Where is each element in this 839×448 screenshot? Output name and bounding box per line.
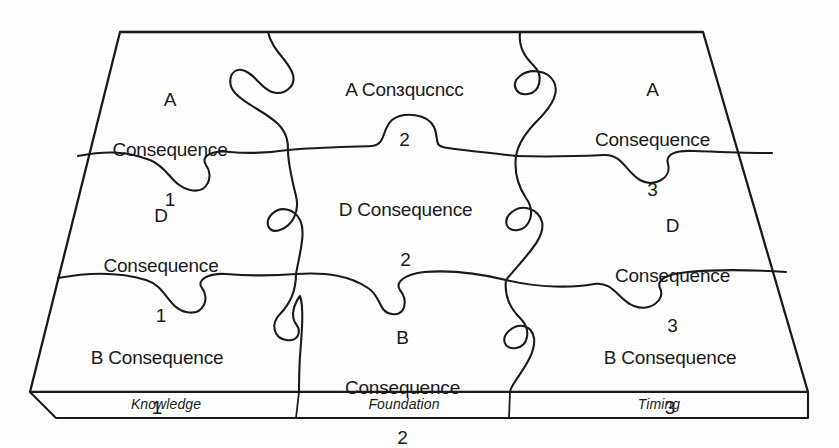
base-divider-2 <box>509 392 510 418</box>
base-label-knowledge: Knowledge <box>40 396 292 412</box>
board-outline <box>30 32 808 392</box>
base-label-timing: Timing <box>515 396 803 412</box>
base-label-foundation: Foundation <box>304 396 504 412</box>
